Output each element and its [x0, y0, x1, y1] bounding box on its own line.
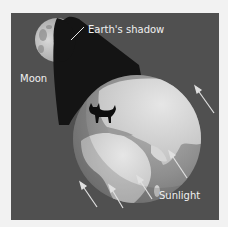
diagram-canvas: Earth's shadow Moon Sunlight	[0, 0, 228, 227]
eclipse-illustration	[11, 13, 219, 220]
moon-label: Moon	[20, 74, 47, 84]
earth-shadow-label: Earth's shadow	[88, 25, 164, 35]
sunlight-arrow-icon	[195, 86, 214, 113]
sunlight-label: Sunlight	[159, 191, 200, 201]
diagram-panel: Earth's shadow Moon Sunlight	[11, 13, 219, 220]
